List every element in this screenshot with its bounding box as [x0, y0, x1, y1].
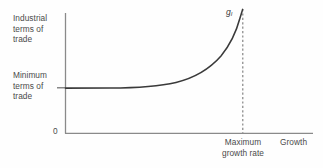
minimum-terms-line-2: terms of: [13, 81, 43, 91]
maximum-growth-line-2: growth rate: [222, 148, 264, 158]
y-axis-title-line-1: Industrial: [13, 13, 47, 23]
x-axis-title: Growth: [280, 137, 307, 148]
minimum-terms-line-3: trade: [13, 91, 32, 101]
industrial-terms-of-trade-curve: [66, 9, 243, 88]
y-axis-title: Industrial terms of trade: [13, 13, 47, 45]
y-axis-title-line-2: terms of: [13, 24, 43, 34]
curve-subscript: I: [231, 11, 233, 17]
maximum-growth-line-1: Maximum: [225, 137, 261, 147]
minimum-terms-line-1: Minimum: [13, 70, 47, 80]
maximum-growth-rate-label: Maximum growth rate: [209, 137, 277, 158]
origin-label: 0: [53, 126, 58, 137]
minimum-terms-of-trade-label: Minimum terms of trade: [13, 70, 47, 102]
curve-label: gI: [226, 7, 233, 20]
y-axis-title-line-3: trade: [13, 34, 32, 44]
economics-chart-figure: Industrial terms of trade Minimum terms …: [0, 0, 323, 168]
